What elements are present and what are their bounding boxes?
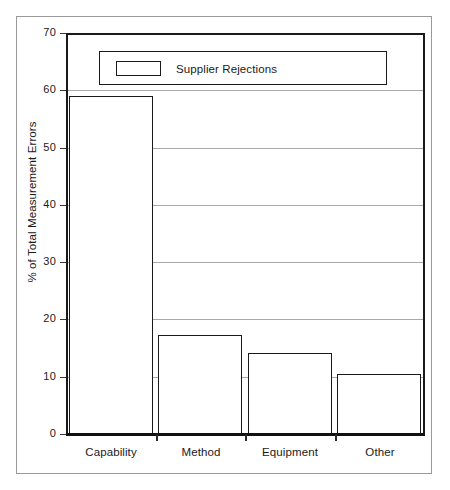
- y-axis-tick-label-wrap: 40: [8, 199, 56, 210]
- bar-capability: [69, 96, 153, 434]
- y-axis-tick-label: 10: [10, 371, 56, 382]
- x-axis-tick-mark: [156, 434, 158, 441]
- x-axis-label-method: Method: [156, 446, 246, 459]
- x-axis-label-capability: Capability: [66, 446, 156, 459]
- y-axis-tick-label: 50: [10, 142, 56, 153]
- x-axis-label-other: Other: [335, 446, 425, 459]
- bar-other: [337, 374, 421, 434]
- gridline: [68, 90, 424, 91]
- legend-swatch-icon: [116, 61, 161, 76]
- x-axis-label-equipment: Equipment: [245, 446, 335, 459]
- bar-equipment: [248, 353, 332, 434]
- y-axis-tick-label-wrap: 70: [8, 27, 56, 38]
- legend-label: Supplier Rejections: [176, 62, 277, 76]
- y-axis-tick-label: 70: [10, 27, 56, 38]
- legend: Supplier Rejections: [99, 51, 387, 85]
- bar-method: [158, 335, 242, 434]
- y-axis-tick-label-wrap: 60: [8, 84, 56, 95]
- plot-top-spine: [66, 33, 425, 35]
- plot-right-spine: [423, 33, 425, 436]
- y-axis-tick-label-wrap: 0: [8, 428, 56, 439]
- y-axis-spine: [66, 33, 68, 436]
- y-axis-tick-label-wrap: 20: [8, 313, 56, 324]
- y-axis-tick-label: 60: [10, 84, 56, 95]
- y-axis-tick-label: 40: [10, 199, 56, 210]
- y-axis-tick-label-wrap: 50: [8, 142, 56, 153]
- y-axis-tick-label: 0: [10, 428, 56, 439]
- y-axis-tick-label: 30: [10, 256, 56, 267]
- x-axis-tick-mark: [335, 434, 337, 441]
- x-axis-tick-mark: [245, 434, 247, 441]
- bar-chart-figure: % of Total Measurement Errors 0102030405…: [0, 0, 450, 490]
- y-axis-tick-label-wrap: 30: [8, 256, 56, 267]
- y-axis-tick-label-wrap: 10: [8, 371, 56, 382]
- y-axis-tick-label: 20: [10, 313, 56, 324]
